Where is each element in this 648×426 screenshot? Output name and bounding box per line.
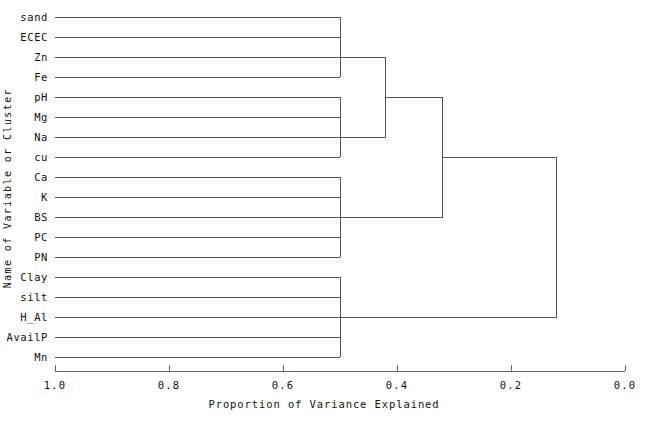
leaf-label-bs: BS xyxy=(0,211,48,223)
x-tick-label-0-6: 0.6 xyxy=(272,379,294,391)
dendrogram-svg xyxy=(0,0,648,426)
leaf-label-pc: PC xyxy=(0,231,48,243)
x-tick-label-1-0: 1.0 xyxy=(44,379,66,391)
x-tick-label-0-2: 0.2 xyxy=(500,379,522,391)
x-tick-label-0-4: 0.4 xyxy=(386,379,408,391)
leaf-label-zn: Zn xyxy=(0,51,48,63)
leaf-label-pn: PN xyxy=(0,251,48,263)
leaf-label-silt: silt xyxy=(0,291,48,303)
leaf-label-mg: Mg xyxy=(0,111,48,123)
leaf-label-h-al: H_Al xyxy=(0,311,48,323)
x-tick-label-0-8: 0.8 xyxy=(158,379,180,391)
leaf-label-na: Na xyxy=(0,131,48,143)
leaf-label-k: K xyxy=(0,191,48,203)
x-tick-label-0-0: 0.0 xyxy=(614,379,636,391)
cluster-link-group xyxy=(55,17,557,357)
x-axis-title: Proportion of Variance Explained xyxy=(0,398,648,410)
leaf-label-sand: sand xyxy=(0,11,48,23)
leaf-label-clay: Clay xyxy=(0,271,48,283)
leaf-line-group xyxy=(55,17,57,357)
leaf-label-availp: AvailP xyxy=(0,331,48,343)
x-axis-line xyxy=(55,365,625,371)
leaf-label-cu: cu xyxy=(0,151,48,163)
dendrogram-plot: Name of Variable or Cluster sandECECZnFe… xyxy=(0,0,648,426)
leaf-label-ca: Ca xyxy=(0,171,48,183)
leaf-label-fe: Fe xyxy=(0,71,48,83)
leaf-label-ecec: ECEC xyxy=(0,31,48,43)
leaf-label-ph: pH xyxy=(0,91,48,103)
leaf-label-mn: Mn xyxy=(0,351,48,363)
